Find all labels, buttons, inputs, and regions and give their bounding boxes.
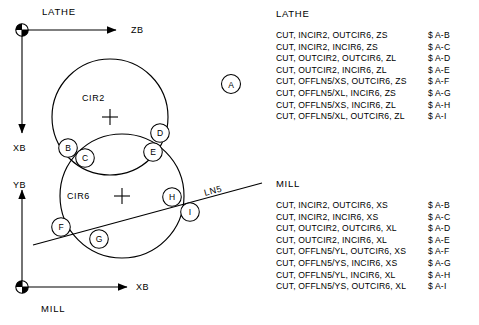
lathe-code-reference: $ A-I [428,111,446,123]
mill-code-reference: $ A-D [428,223,450,235]
ln5-label: LN5 [203,183,223,197]
mill-code-reference: $ A-H [428,270,450,282]
mill-code-reference: $ A-C [428,212,450,224]
diagram-page: LATHE ZB XB YB XB MILL [0,0,479,325]
mill-code-title: MILL [276,178,451,189]
point-label-c: C [82,153,88,163]
mill-code-line: CUT, OFFLN5/YL, INCIR6, XL$ A-H [276,270,451,282]
lathe-code-reference: $ A-B [428,30,450,42]
lathe-code-line: CUT, OFFLN5/XL, OUTCIR6, ZL$ A-I [276,111,451,123]
point-label-i: I [189,207,191,217]
point-label-d: D [157,128,163,138]
mill-code-line: CUT, OFFLN5/YL, OUTCIR6, XS$ A-F [276,246,451,258]
lathe-code-reference: $ A-C [428,42,450,54]
lathe-xb-axis-label: XB [13,143,26,153]
lathe-zb-axis-label: ZB [131,25,144,35]
lathe-code-statement: CUT, OFFLN5/XS, OUTCIR6, ZS [276,76,428,88]
lathe-code-line: CUT, INCIR2, OUTCIR6, ZS$ A-B [276,30,451,42]
point-label-e: E [150,147,156,157]
mill-code-statement: CUT, OFFLN5/YL, INCIR6, XL [276,270,428,282]
mill-code-statement: CUT, OFFLN5/YS, INCIR6, XS [276,258,428,270]
lathe-code-statement: CUT, OUTCIR2, INCIR6, ZL [276,65,428,77]
lathe-code-title: LATHE [276,8,451,19]
mill-code-statement: CUT, INCIR2, INCIR6, XS [276,212,428,224]
mill-system-label: MILL [41,303,65,314]
mill-code-statement: CUT, OUTCIR2, OUTCIR6, XL [276,223,428,235]
callout-a[interactable]: A [222,75,241,94]
mill-code-reference: $ A-G [428,258,451,270]
mill-code-statement: CUT, OFFLN5/YL, OUTCIR6, XS [276,246,428,258]
lathe-code-statement: CUT, OFFLN5/XL, OUTCIR6, ZL [276,111,428,123]
lathe-code-statement: CUT, OFFLN5/XL, INCIR6, ZS [276,88,428,100]
mill-code-lines: CUT, INCIR2, OUTCIR6, XS$ A-BCUT, INCIR2… [276,200,451,293]
lathe-code-reference: $ A-F [428,76,449,88]
lathe-code-statement: CUT, OFFLN5/XS, INCIR6, ZL [276,100,428,112]
lathe-code-statement: CUT, INCIR2, OUTCIR6, ZS [276,30,428,42]
point-label-b: B [65,143,71,153]
point-label-h: H [169,192,175,202]
point-bubble-i[interactable]: I [181,203,200,222]
point-bubble-e[interactable]: E [144,143,163,162]
cir6-center-cross [114,188,130,204]
lathe-code-reference: $ A-H [428,100,450,112]
mill-code-line: CUT, OUTCIR2, OUTCIR6, XL$ A-D [276,223,451,235]
lathe-code-reference: $ A-E [428,65,450,77]
mill-xb-axis-label: XB [136,282,149,292]
lathe-code-line: CUT, OFFLN5/XL, INCIR6, ZS$ A-G [276,88,451,100]
point-bubble-d[interactable]: D [151,124,170,143]
lathe-code-lines: CUT, INCIR2, OUTCIR6, ZS$ A-BCUT, INCIR2… [276,30,451,123]
lathe-code-line: CUT, INCIR2, INCIR6, ZS$ A-C [276,42,451,54]
lathe-code-reference: $ A-D [428,53,450,65]
mill-yb-axis-label: YB [13,180,26,190]
cir2-center-cross [102,109,118,125]
point-bubble-h[interactable]: H [163,188,182,207]
mill-code-line: CUT, INCIR2, OUTCIR6, XS$ A-B [276,200,451,212]
lathe-system-label: LATHE [42,6,76,17]
mill-code-reference: $ A-I [428,281,446,293]
intersection-point-bubbles: BCDEFGHI [52,124,200,249]
lathe-code-statement: CUT, INCIR2, INCIR6, ZS [276,42,428,54]
mill-code-line: CUT, INCIR2, INCIR6, XS$ A-C [276,212,451,224]
lathe-code-reference: $ A-G [428,88,451,100]
callout-a-label: A [228,80,234,90]
lathe-code-line: CUT, OFFLN5/XS, OUTCIR6, ZS$ A-F [276,76,451,88]
point-label-f: F [58,222,63,232]
mill-code-statement: CUT, OFFLN5/YS, OUTCIR6, XL [276,281,428,293]
cir2-label: CIR2 [82,93,105,103]
mill-code-statement: CUT, OUTCIR2, INCIR6, XL [276,235,428,247]
lathe-code-statement: CUT, OUTCIR2, OUTCIR6, ZL [276,53,428,65]
lathe-code-line: CUT, OUTCIR2, INCIR6, ZL$ A-E [276,65,451,77]
point-bubble-c[interactable]: C [76,149,95,168]
mill-code-line: CUT, OFFLN5/YS, INCIR6, XS$ A-G [276,258,451,270]
mill-code-reference: $ A-E [428,235,450,247]
mill-code-line: CUT, OFFLN5/YS, OUTCIR6, XL$ A-I [276,281,451,293]
mill-code-line: CUT, OUTCIR2, INCIR6, XL$ A-E [276,235,451,247]
lathe-code-line: CUT, OFFLN5/XS, INCIR6, ZL$ A-H [276,100,451,112]
point-label-g: G [96,234,103,244]
point-bubble-b[interactable]: B [59,139,78,158]
mill-code-reference: $ A-F [428,246,449,258]
cir6-label: CIR6 [67,191,90,201]
lathe-coordinate-system: LATHE ZB XB [13,6,144,153]
mill-code-reference: $ A-B [428,200,450,212]
point-bubble-f[interactable]: F [52,218,71,237]
point-bubble-g[interactable]: G [90,230,109,249]
mill-code-block: MILL CUT, INCIR2, OUTCIR6, XS$ A-BCUT, I… [276,178,451,293]
lathe-code-line: CUT, OUTCIR2, OUTCIR6, ZL$ A-D [276,53,451,65]
lathe-code-block: LATHE CUT, INCIR2, OUTCIR6, ZS$ A-BCUT, … [276,8,451,123]
mill-code-statement: CUT, INCIR2, OUTCIR6, XS [276,200,428,212]
